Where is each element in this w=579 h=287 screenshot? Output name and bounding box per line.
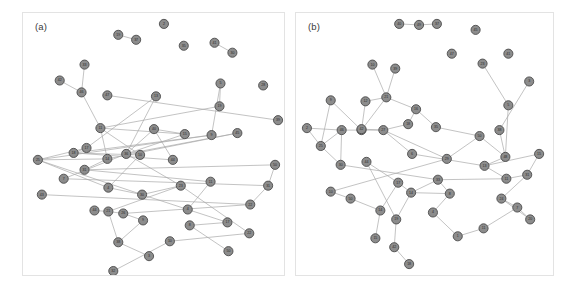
graph-node[interactable]: 10 [368,60,377,69]
graph-node[interactable]: 4 [183,205,192,214]
graph-node[interactable]: 17 [82,143,91,152]
graph-node[interactable]: 26 [119,209,128,218]
graph-node[interactable]: 4 [104,183,113,192]
graph-node[interactable]: 24 [497,194,506,203]
graph-node[interactable]: 3 [525,77,534,86]
graph-node[interactable]: 19 [114,30,123,39]
graph-node[interactable]: 32 [109,266,118,275]
graph-node[interactable]: 15 [180,130,189,139]
graph-node[interactable]: 19 [215,102,224,111]
graph-node[interactable]: 28 [259,81,268,90]
graph-node[interactable]: 35 [431,123,440,132]
graph-node[interactable]: 44 [362,157,371,166]
graph-node[interactable]: 8 [185,221,194,230]
graph-node[interactable]: 6 [408,149,417,158]
graph-node[interactable]: 30 [138,190,147,199]
graph-node[interactable]: 11 [502,174,511,183]
graph-node[interactable]: 9 [326,96,335,105]
graph-node[interactable]: 46 [77,88,86,97]
graph-node[interactable]: 15 [535,149,544,158]
graph-node[interactable]: 50 [346,194,355,203]
graph-node[interactable]: 16 [412,105,421,114]
graph-node[interactable]: 2 [159,19,168,28]
graph-node[interactable]: 5 [504,101,513,110]
graph-node[interactable]: 13 [151,92,160,101]
graph-node[interactable]: 21 [104,207,113,216]
graph-node[interactable]: 17 [394,178,403,187]
graph-node[interactable]: 36 [122,149,131,158]
graph-node[interactable]: 37 [132,35,141,44]
graph-node[interactable]: 47 [447,49,456,58]
graph-node[interactable]: 38 [495,126,504,135]
graph-node[interactable]: 10 [326,187,335,196]
graph-node[interactable]: 18 [404,120,413,129]
graph-node[interactable]: 47 [103,91,112,100]
graph-node[interactable]: 22 [245,229,254,238]
graph-node[interactable]: 45 [233,129,242,138]
graph-node[interactable]: 20 [526,215,535,224]
graph-node[interactable]: 30 [336,160,345,169]
graph-node[interactable]: 11 [206,177,215,186]
graph-node[interactable]: 17 [223,218,232,227]
graph-node[interactable]: 19 [392,215,401,224]
graph-node[interactable]: 31 [264,181,273,190]
graph-node[interactable]: 29 [442,154,451,163]
graph-node[interactable]: 12 [361,97,370,106]
graph-node[interactable]: 13 [480,161,489,170]
graph-node[interactable]: 23 [478,59,487,68]
graph-node[interactable]: 9 [207,131,216,140]
graph-node[interactable]: 1 [453,232,462,241]
graph-node[interactable]: 31 [523,170,532,179]
graph-node[interactable]: 30 [228,48,237,57]
graph-node[interactable]: 25 [33,155,42,164]
graph-node[interactable]: 33 [433,175,442,184]
graph-node[interactable]: 18 [69,148,78,157]
graph-node[interactable]: 4 [428,208,437,217]
graph-node[interactable]: 22 [246,200,255,209]
graph-node[interactable]: 10 [165,237,174,246]
graph-node[interactable]: 44 [168,155,177,164]
graph-node[interactable]: 25 [316,141,325,150]
graph-node[interactable]: 14 [376,206,385,215]
graph-node[interactable]: 50 [475,131,484,140]
graph-node[interactable]: 18 [405,260,414,269]
graph-node[interactable]: 27 [379,126,388,135]
graph-node[interactable]: 40 [395,19,404,28]
graph-node[interactable]: 15 [371,234,380,243]
graph-node[interactable]: 42 [390,243,399,252]
graph-node[interactable]: 41 [504,49,513,58]
graph-node[interactable]: 5 [216,79,225,88]
graph-node[interactable]: 33 [80,60,89,69]
graph-node[interactable]: 3 [144,252,153,261]
graph-node[interactable]: 49 [414,20,423,29]
graph-node[interactable]: 7 [513,203,522,212]
graph-node[interactable]: 50 [271,160,280,169]
graph-node[interactable]: 41 [210,38,219,47]
graph-node[interactable]: 35 [179,41,188,50]
graph-node[interactable]: 46 [337,126,346,135]
graph-node[interactable]: 39 [391,64,400,73]
graph-node[interactable]: 2 [302,124,311,133]
graph-node[interactable]: 38 [114,238,123,247]
graph-node[interactable]: 14 [407,188,416,197]
graph-node[interactable]: 9 [139,216,148,225]
graph-node[interactable]: 37 [432,19,441,28]
graph-node[interactable]: 11 [479,224,488,233]
graph-node[interactable]: 14 [103,154,112,163]
graph-node[interactable]: 43 [37,190,46,199]
graph-node[interactable]: 31 [80,165,89,174]
graph-node[interactable]: 42 [55,76,64,85]
graph-node[interactable]: 42 [357,125,366,134]
graph-node[interactable]: 44 [90,206,99,215]
graph-node[interactable]: 40 [149,125,158,134]
graph-node[interactable]: 21 [382,93,391,102]
graph-node[interactable]: 45 [471,25,480,34]
graph-node[interactable]: 39 [273,116,282,125]
graph-node[interactable]: 50 [224,247,233,256]
graph-node[interactable]: 11 [96,124,105,133]
graph-node[interactable]: 8 [445,189,454,198]
graph-node[interactable]: 48 [501,152,510,161]
graph-node[interactable]: 7 [59,174,68,183]
graph-node[interactable]: 23 [176,181,185,190]
graph-node[interactable]: 10 [136,150,145,159]
